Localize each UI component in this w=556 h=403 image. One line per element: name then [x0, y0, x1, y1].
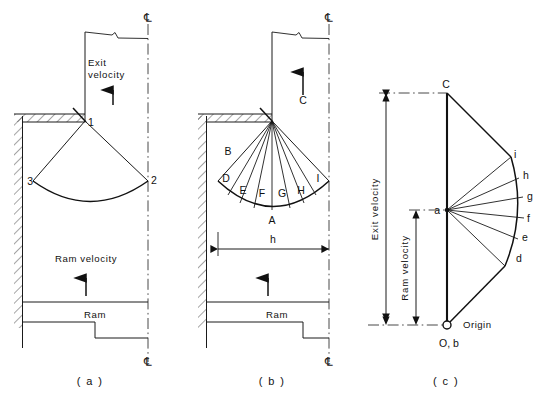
panel-c-exit-dim-arrow-top [382, 93, 389, 102]
panel-a-fan-arc [33, 181, 148, 202]
panel-a-caption: ( a ) [77, 375, 104, 387]
panel-a-die-face-hatch [14, 114, 85, 122]
panel-b-zone-G-label: G [278, 187, 286, 199]
panel-c-node-f-label: f [527, 212, 530, 224]
panel-c-node-e-label: e [522, 231, 528, 243]
panel-b-fan-arc [218, 181, 329, 207]
panel-b-fan-edge-right [272, 121, 329, 181]
panel-b-centerline-top-symbol: ℄ [324, 11, 333, 25]
panel-c-vector-a-h [447, 178, 519, 210]
panel-c-origin-label: Origin [463, 319, 492, 330]
panel-a-centerline-bottom-symbol: ℄ [143, 355, 152, 369]
panel-b-zone-H-label: H [297, 184, 305, 196]
panel-b-break-line [272, 32, 329, 39]
panel-c-chord-d-origin [447, 266, 505, 325]
panel-b-zone-I-label: I [317, 172, 320, 184]
panel-c-vector-a-g [447, 197, 523, 210]
panel-c-node-g-label: g [527, 190, 533, 202]
panel-b-velocity-C-label: C [299, 94, 307, 106]
panel-a-node-2-label: 2 [151, 174, 157, 186]
panel-b-zone-D-label: D [222, 172, 230, 184]
panel-c-ram-velocity-label: Ram velocity [399, 235, 410, 301]
panel-c-vector-a-e [447, 210, 518, 239]
panel-c-node-d-label: d [516, 252, 522, 264]
panel-c-ram-dim-arrow-bottom [412, 317, 419, 326]
panel-b-ray-7 [272, 121, 316, 195]
panel-a-break-line [85, 32, 148, 39]
panel-a-ram-label: Ram [84, 309, 106, 320]
panel-a-exit-velocity-line2: velocity [88, 69, 125, 80]
panel-b-ray-1 [228, 121, 272, 195]
panel-c-node-h-label: h [523, 169, 529, 181]
panel-a-die-wall-hatch [14, 116, 23, 328]
panel-c-vector-a-f [447, 210, 524, 218]
panel-c-node-Ob-label: O, b [439, 337, 459, 349]
panel-c-exit-dim-arrow-bottom [382, 317, 389, 326]
panel-b-zone-B-label: B [224, 145, 231, 157]
panel-a-centerline-top-symbol: ℄ [143, 11, 152, 25]
panel-b-dimension-h-label: h [270, 233, 276, 245]
panel-b-zone-E-label: E [239, 184, 246, 196]
panel-a-fan-edge-left [33, 121, 85, 181]
panel-c-vector-a-d [447, 210, 505, 266]
panel-b-ram-step-profile [207, 322, 330, 338]
panel-b-ram-label: Ram [266, 309, 288, 320]
panel-c-node-a-label: a [434, 204, 440, 216]
panel-c-chord-C-i [447, 93, 511, 157]
panel-b-zone-A-label: A [268, 214, 275, 226]
technical-diagram-svg: 1 2 3 Exit velocity Ram velocity Ram ℄ ℄… [0, 0, 556, 403]
panel-c-node-i-label: i [514, 148, 516, 160]
panel-b-die-face-hatch [198, 114, 272, 122]
panel-a-fan-edge-right [85, 121, 148, 181]
panel-c-caption: ( c ) [433, 375, 459, 387]
panel-a-ram-step-profile [23, 322, 149, 338]
panel-a-exit-velocity-line1: Exit [88, 57, 106, 68]
panel-b-die-wall-hatch [198, 116, 207, 328]
panel-c-hodograph-arc [505, 157, 518, 266]
panel-b-centerline-bottom-symbol: ℄ [324, 355, 333, 369]
panel-c-pole-marker [445, 208, 449, 212]
panel-c-vector-a-i [447, 157, 511, 210]
panel-b-zone-F-label: F [259, 187, 265, 199]
panel-b: B D E F G H I A C h Ram ℄ ℄ ( b [198, 11, 333, 387]
panel-a-ram-velocity-label: Ram velocity [55, 253, 117, 264]
panel-b-caption: ( b ) [259, 375, 286, 387]
panel-c: C a O, b d e f g h i Origin Exit velocit… [368, 78, 533, 387]
panel-c-node-C-label: C [442, 78, 450, 90]
panel-c-exit-velocity-label: Exit velocity [369, 178, 380, 240]
panel-a-node-3-label: 3 [27, 175, 33, 187]
panel-a: 1 2 3 Exit velocity Ram velocity Ram ℄ ℄… [14, 11, 157, 387]
figure-root: 1 2 3 Exit velocity Ram velocity Ram ℄ ℄… [0, 0, 556, 403]
panel-c-origin-marker [443, 321, 451, 329]
panel-c-ram-dim-arrow-top [412, 210, 419, 219]
panel-a-node-1-label: 1 [88, 116, 94, 128]
